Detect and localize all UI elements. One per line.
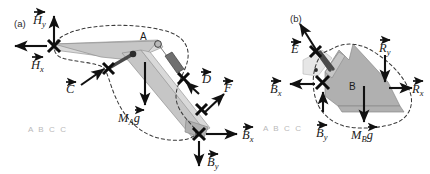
- svg-text:Bx: Bx: [242, 128, 254, 144]
- panel-a: (a): [14, 12, 254, 171]
- svg-text:Bx: Bx: [270, 82, 282, 98]
- force-label-D: D: [201, 72, 211, 86]
- label-F-main: F: [223, 81, 232, 95]
- cylinder-barrel: [165, 52, 184, 73]
- force-label-Rx: Rx: [411, 81, 424, 98]
- force-label-weight-b: MBg: [350, 127, 377, 144]
- label-b-Bx-sub: x: [277, 88, 282, 98]
- fbd-svg-canvas: (a): [0, 0, 430, 174]
- pin-joint-a-link: [130, 51, 137, 58]
- force-label-a-Bx: Bx: [242, 127, 254, 144]
- label-b-By-sub: y: [323, 132, 328, 142]
- force-label-a-By: By: [207, 154, 219, 171]
- free-body-diagram-figure: (a): [0, 0, 430, 174]
- svg-text:MAg: MAg: [117, 111, 140, 127]
- force-label-F: F: [223, 81, 233, 95]
- label-a-Bx-sub: x: [249, 134, 254, 144]
- label-MB-g: g: [367, 128, 373, 142]
- svg-text:By: By: [207, 155, 219, 171]
- label-C-main: C: [66, 82, 75, 96]
- svg-text:MBg: MBg: [350, 128, 373, 144]
- label-MA-main: M: [117, 111, 129, 125]
- label-D-main: D: [201, 72, 211, 86]
- panel-a-tag: (a): [14, 18, 26, 29]
- force-arrow-E: [300, 24, 320, 56]
- label-Rx-main: R: [411, 82, 420, 96]
- force-label-E: E: [290, 42, 301, 56]
- force-label-b-Bx: Bx: [270, 81, 282, 98]
- svg-text:Rx: Rx: [411, 82, 424, 98]
- panel-a-joint-f-xmark: [196, 104, 207, 115]
- svg-text:By: By: [316, 126, 328, 142]
- force-arrow-D: [186, 82, 199, 94]
- panel-a-point-label: A: [140, 31, 147, 42]
- force-label-b-By: By: [316, 125, 328, 142]
- force-label-Hx: Hx: [30, 57, 44, 74]
- panel-b: (b) E: [263, 13, 424, 144]
- force-label-C: C: [66, 82, 76, 96]
- label-MA-g: g: [134, 111, 140, 125]
- force-label-Hy: Hy: [32, 12, 46, 29]
- panel-a-watermark: A B C C: [28, 125, 68, 134]
- label-Rx-sub: x: [419, 88, 424, 98]
- svg-text:Ry: Ry: [378, 41, 391, 57]
- bucket-lip: [338, 106, 404, 112]
- force-arrow-F: [204, 94, 224, 113]
- label-Hx-sub: x: [39, 64, 44, 74]
- label-E-main: E: [290, 42, 299, 56]
- svg-text:Hy: Hy: [32, 13, 46, 29]
- force-arrow-C: [81, 69, 104, 85]
- svg-text:Hx: Hx: [30, 58, 44, 74]
- label-MB-main: M: [350, 128, 362, 142]
- label-a-By-sub: y: [214, 161, 219, 171]
- label-Ry-main: R: [378, 41, 387, 55]
- panel-b-tag: (b): [290, 13, 302, 24]
- panel-b-watermark: A B C C: [263, 124, 303, 133]
- panel-b-point-label: B: [349, 81, 356, 92]
- label-Hy-sub: y: [41, 19, 46, 29]
- force-label-Ry: Ry: [378, 40, 391, 57]
- pin-joint-cylinder-top: [155, 41, 162, 48]
- label-Ry-sub: y: [386, 47, 391, 57]
- force-label-weight-a: MAg: [117, 110, 144, 127]
